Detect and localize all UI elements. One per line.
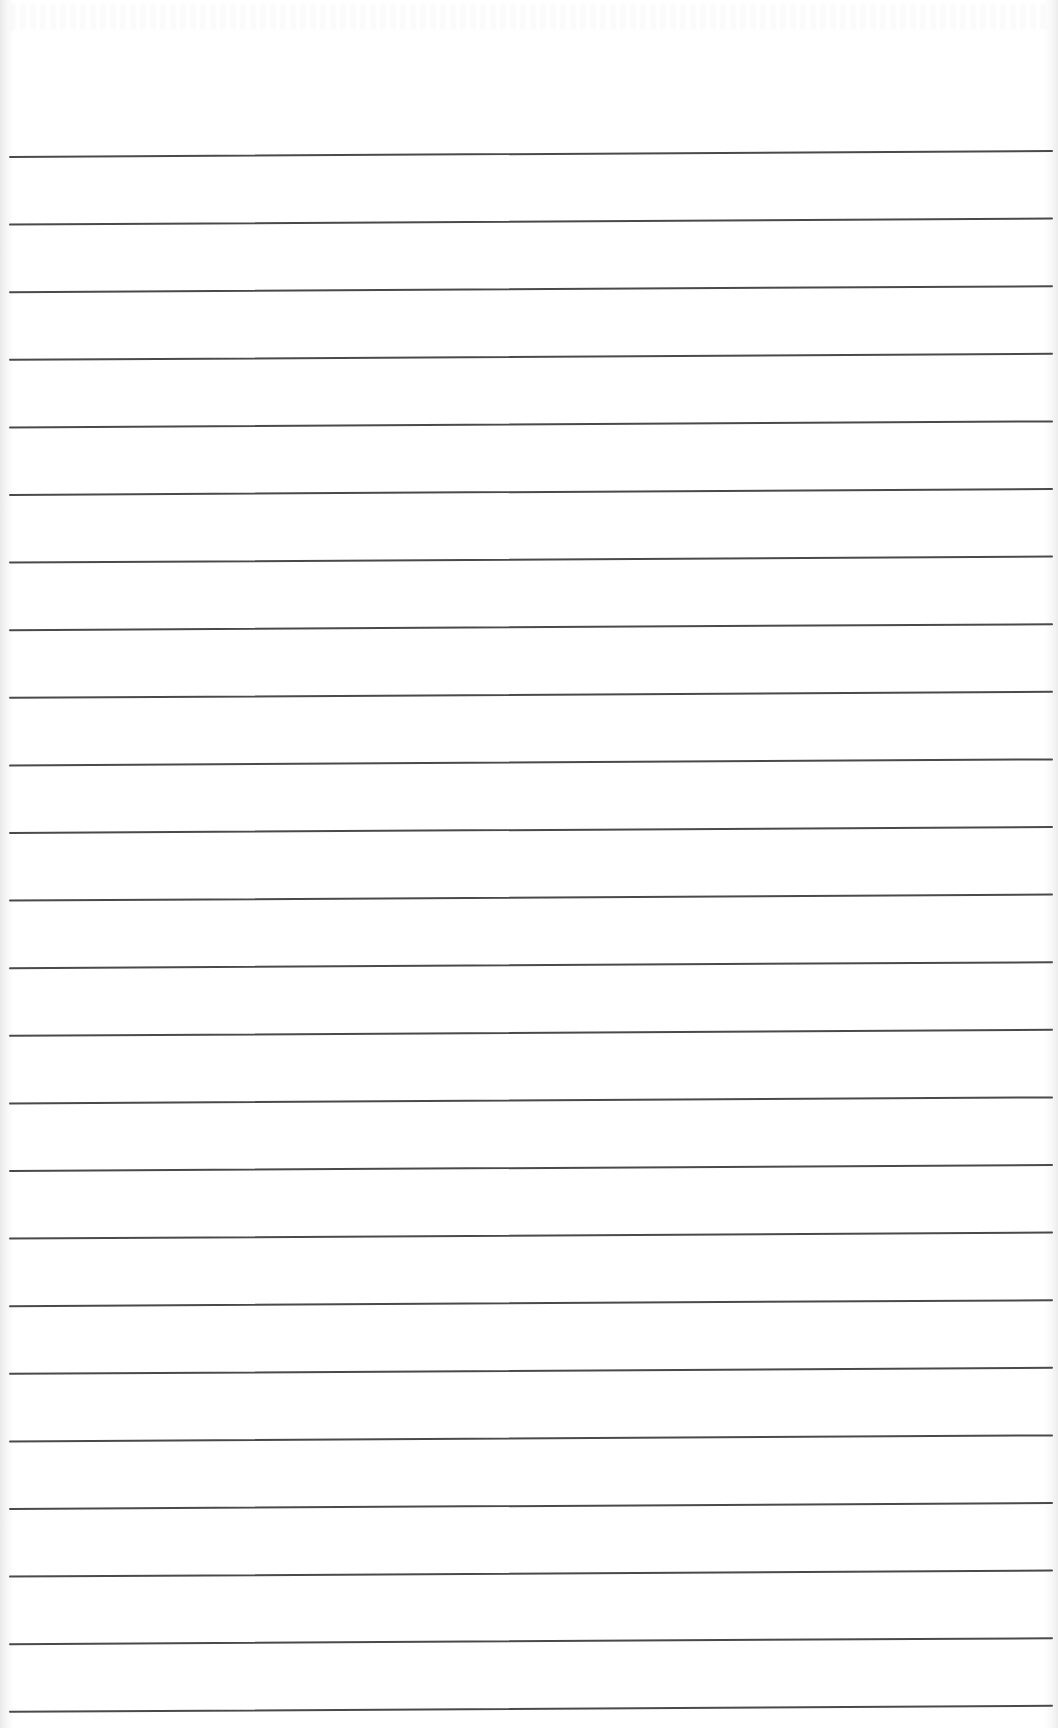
ruled-line (10, 219, 1052, 225)
ruled-line (10, 151, 1052, 157)
ruled-line (10, 1435, 1052, 1441)
ruled-line (10, 1571, 1052, 1577)
ruled-paper-sheet (0, 0, 1058, 1728)
ruled-line (10, 759, 1052, 765)
ruled-lines (0, 0, 1058, 1728)
ruled-line (10, 1097, 1052, 1103)
ruled-line (10, 1165, 1052, 1171)
ruled-line (10, 354, 1052, 360)
ruled-line (10, 827, 1052, 833)
ruled-line (10, 286, 1052, 292)
ruled-line (10, 421, 1052, 427)
ruled-line (10, 557, 1052, 563)
ruled-line (10, 624, 1052, 630)
ruled-line (10, 895, 1052, 901)
ruled-line (10, 1706, 1052, 1712)
ruled-line (10, 1368, 1052, 1374)
ruled-line (10, 1300, 1052, 1306)
ruled-line (10, 1233, 1052, 1239)
ruled-line (10, 1030, 1052, 1036)
ruled-line (10, 489, 1052, 495)
ruled-line (10, 1638, 1052, 1644)
ruled-line (10, 692, 1052, 698)
ruled-line (10, 962, 1052, 968)
ruled-line (10, 1503, 1052, 1509)
